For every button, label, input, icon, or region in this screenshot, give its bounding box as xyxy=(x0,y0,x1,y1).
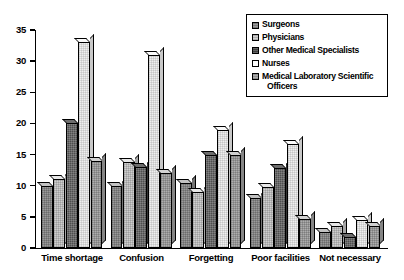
bar-front-face xyxy=(192,192,204,248)
legend-item[interactable]: Medical Laboratory ScientificOfficers xyxy=(252,72,383,91)
bar xyxy=(250,198,262,248)
category-label: Not necessary xyxy=(309,252,391,263)
y-tick-label: 15 xyxy=(2,150,26,159)
y-tick-label: 10 xyxy=(2,181,26,190)
bar xyxy=(135,167,147,248)
bar-front-face xyxy=(41,186,53,248)
y-tick-label: 35 xyxy=(2,25,26,34)
bar xyxy=(319,232,331,248)
legend-label-continuation: Officers xyxy=(262,82,373,92)
bar-front-face xyxy=(274,168,286,248)
bar-front-face xyxy=(331,226,343,248)
bar-front-face xyxy=(299,219,311,248)
bar-front-face xyxy=(230,155,242,248)
bar xyxy=(78,42,90,248)
bar xyxy=(192,192,204,248)
bar-front-face xyxy=(287,144,299,248)
bar-front-face xyxy=(369,226,381,248)
y-tick-mark xyxy=(30,123,35,124)
legend-label: Other Medical Specialists xyxy=(262,46,359,56)
legend-swatch-icon xyxy=(252,47,259,54)
bar-front-face xyxy=(111,186,123,248)
y-tick-label: 25 xyxy=(2,87,26,96)
bar xyxy=(299,219,311,248)
y-tick-mark xyxy=(30,29,35,30)
bar-front-face xyxy=(78,42,90,248)
bar-side-face xyxy=(380,218,384,244)
bar-front-face xyxy=(66,123,78,248)
y-tick-mark xyxy=(30,154,35,155)
legend: SurgeonsPhysiciansOther Medical Speciali… xyxy=(246,14,388,97)
bar xyxy=(66,123,78,248)
legend-item[interactable]: Nurses xyxy=(252,59,383,69)
legend-label: Medical Laboratory ScientificOfficers xyxy=(262,72,373,91)
bar-front-face xyxy=(160,173,172,248)
legend-swatch-icon xyxy=(252,22,259,29)
legend-item[interactable]: Physicians xyxy=(252,33,383,43)
legend-swatch-icon xyxy=(252,73,259,80)
bar-front-face xyxy=(123,162,135,248)
bar-front-face xyxy=(217,130,229,248)
bar xyxy=(111,186,123,248)
bar xyxy=(262,187,274,248)
y-tick-mark xyxy=(30,216,35,217)
bar-side-face xyxy=(172,165,176,244)
legend-label: Surgeons xyxy=(262,20,299,30)
bar xyxy=(53,179,65,248)
legend-label: Physicians xyxy=(262,33,304,43)
bar xyxy=(369,226,381,248)
bar-front-face xyxy=(344,237,356,248)
bar-front-face xyxy=(148,55,160,248)
bar xyxy=(274,168,286,248)
legend-item[interactable]: Surgeons xyxy=(252,20,383,30)
bar-front-face xyxy=(205,155,217,248)
legend-swatch-icon xyxy=(252,60,259,67)
y-tick-label: 0 xyxy=(2,243,26,252)
bar-front-face xyxy=(262,187,274,248)
bar xyxy=(91,161,103,248)
bar-chart: 05101520253035 Time shortageConfusionFor… xyxy=(0,0,404,280)
bar xyxy=(180,183,192,248)
bar-side-face xyxy=(102,153,106,244)
y-tick-mark xyxy=(30,92,35,93)
bar xyxy=(205,155,217,248)
bar-front-face xyxy=(135,167,147,248)
y-tick-mark xyxy=(30,185,35,186)
bar-front-face xyxy=(250,198,262,248)
y-axis-line xyxy=(35,30,36,248)
bar-front-face xyxy=(91,161,103,248)
bar xyxy=(148,55,160,248)
legend-label: Nurses xyxy=(262,59,289,69)
bar xyxy=(230,155,242,248)
bar xyxy=(344,237,356,248)
bar-front-face xyxy=(53,179,65,248)
y-tick-mark xyxy=(30,60,35,61)
bar xyxy=(41,186,53,248)
y-tick-label: 20 xyxy=(2,118,26,127)
y-tick-mark xyxy=(30,247,35,248)
bar xyxy=(217,130,229,248)
bar-side-face xyxy=(241,147,245,244)
bar xyxy=(160,173,172,248)
legend-swatch-icon xyxy=(252,34,259,41)
y-tick-label: 30 xyxy=(2,56,26,65)
bar-front-face xyxy=(319,232,331,248)
bar xyxy=(123,162,135,248)
bar xyxy=(331,226,343,248)
y-tick-label: 5 xyxy=(2,212,26,221)
legend-item[interactable]: Other Medical Specialists xyxy=(252,46,383,56)
bar xyxy=(287,144,299,248)
bar-front-face xyxy=(180,183,192,248)
